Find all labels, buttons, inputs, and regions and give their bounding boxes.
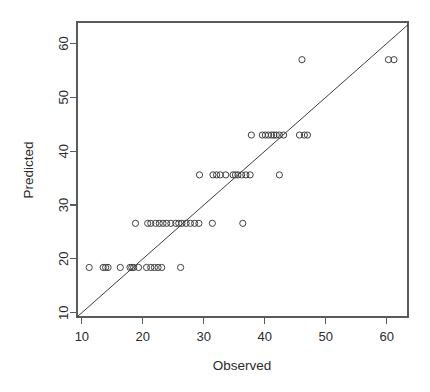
data-point xyxy=(247,172,253,178)
data-point xyxy=(196,220,202,226)
x-axis-title: Observed xyxy=(213,358,272,373)
y-axis-ticks xyxy=(70,44,77,313)
x-tick-label: 60 xyxy=(379,329,393,344)
data-point xyxy=(196,172,202,178)
identity-reference-line xyxy=(77,25,408,317)
data-point xyxy=(159,264,165,270)
data-point xyxy=(299,57,305,63)
data-point xyxy=(117,264,123,270)
data-point xyxy=(209,220,215,226)
scatter-plot-figure: 102030405060 102030405060 Observed Predi… xyxy=(0,0,430,392)
y-tick-label: 40 xyxy=(57,144,72,158)
data-points-layer xyxy=(86,57,397,271)
identity-line xyxy=(77,25,408,317)
data-point xyxy=(248,132,254,138)
x-tick-label: 20 xyxy=(136,329,150,344)
y-tick-label: 50 xyxy=(57,90,72,104)
x-tick-label: 50 xyxy=(318,329,332,344)
x-tick-label: 30 xyxy=(197,329,211,344)
x-tick-label: 10 xyxy=(75,329,89,344)
x-tick-label: 40 xyxy=(258,329,272,344)
plot-canvas: 102030405060 102030405060 Observed Predi… xyxy=(0,0,430,392)
data-point xyxy=(86,264,92,270)
data-point xyxy=(276,172,282,178)
y-axis-title: Predicted xyxy=(21,141,36,198)
y-tick-label: 20 xyxy=(57,252,72,266)
y-tick-label: 60 xyxy=(57,36,72,50)
y-tick-label: 10 xyxy=(57,305,72,319)
data-point xyxy=(178,264,184,270)
x-axis-tick-labels: 102030405060 xyxy=(75,329,394,344)
data-point xyxy=(132,220,138,226)
y-tick-label: 30 xyxy=(57,198,72,212)
x-axis-ticks xyxy=(82,317,387,324)
y-axis-tick-labels: 102030405060 xyxy=(57,36,72,320)
data-point xyxy=(240,220,246,226)
